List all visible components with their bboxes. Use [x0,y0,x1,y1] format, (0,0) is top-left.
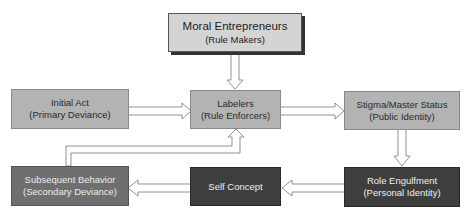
arrow-stigma-to-role [394,129,410,166]
node-subtitle: (Personal Identity) [363,187,440,199]
node-title: Role Engulfment [367,175,437,187]
node-title: Labelers [217,98,253,110]
node-role-engulfment: Role Engulfment (Personal Identity) [344,167,460,207]
node-title: Self Concept [208,181,262,193]
node-title: Initial Act [51,97,89,109]
node-subtitle: (Rule Enforcers) [201,110,270,122]
node-subtitle: (Primary Deviance) [29,109,110,121]
node-initial-act: Initial Act (Primary Deviance) [11,89,129,129]
node-title: Stigma/Master Status [357,99,448,111]
arrow-initial-to-labelers [128,103,191,119]
node-subsequent-behavior: Subsequent Behavior (Secondary Deviance) [11,166,129,206]
node-stigma-master-status: Stigma/Master Status (Public Identity) [344,91,460,130]
arrow-self-to-subsequent [128,180,191,196]
node-title: Moral Entrepreneurs [183,19,288,33]
node-labelers: Labelers (Rule Enforcers) [190,90,281,129]
node-self-concept: Self Concept [190,167,281,206]
arrow-moral-to-labelers [227,52,243,89]
node-subtitle: (Rule Makers) [205,34,265,46]
node-subtitle: (Secondary Deviance) [23,186,117,198]
arrow-labelers-to-stigma [280,103,344,119]
arrow-role-to-self [282,180,345,196]
node-moral-entrepreneurs: Moral Entrepreneurs (Rule Makers) [168,13,302,52]
node-title: Subsequent Behavior [25,174,116,186]
arrow-subsequent-to-labelers [66,129,244,166]
node-subtitle: (Public Identity) [369,111,434,123]
